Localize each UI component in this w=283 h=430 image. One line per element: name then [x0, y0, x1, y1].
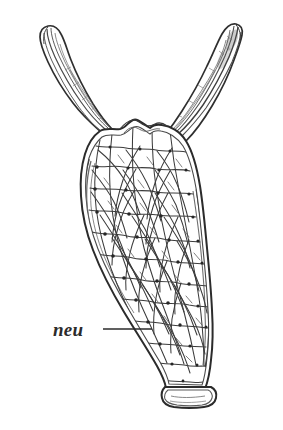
nerve-node: [201, 262, 204, 265]
nerve-node: [126, 166, 129, 169]
nerve-node: [95, 165, 98, 168]
nerve-node: [205, 326, 208, 329]
nerve-node: [185, 169, 188, 172]
nerve-node: [176, 260, 179, 263]
nerve-node: [127, 212, 131, 216]
nerve-node: [135, 235, 139, 239]
anatomical-diagram: neu: [0, 0, 283, 430]
nerve-node: [191, 215, 194, 218]
nerve-node: [122, 276, 126, 280]
nerve-node: [158, 342, 161, 345]
nerve-node: [166, 301, 170, 305]
nerve-node: [124, 188, 127, 191]
pedal-disc: [162, 387, 217, 408]
nerve-node: [156, 191, 159, 194]
nerve-node: [146, 320, 150, 324]
nerve-node: [187, 282, 190, 285]
nerve-node: [196, 304, 199, 307]
nerve-node: [144, 257, 148, 261]
nerve-node: [139, 148, 142, 151]
nerve-node: [196, 239, 199, 242]
nerve-node: [159, 214, 162, 217]
nerve-node: [169, 150, 172, 153]
nerve-node: [188, 344, 191, 347]
nerve-node: [134, 298, 138, 302]
nerve-node: [93, 187, 97, 191]
nerve-node: [157, 168, 160, 171]
nerve-node: [155, 279, 159, 283]
nerve-node: [182, 380, 185, 383]
nerve-node: [167, 238, 170, 241]
nerve-node: [187, 192, 190, 195]
nerve-node: [109, 146, 112, 149]
label-neu-text: neu: [53, 319, 83, 340]
nerve-node: [95, 210, 99, 214]
nerve-node: [178, 323, 181, 326]
nerve-node: [170, 362, 173, 365]
nerve-node: [103, 232, 107, 236]
nerve-node: [196, 364, 199, 367]
figure-container: neu: [0, 0, 283, 430]
nerve-node: [111, 254, 115, 258]
